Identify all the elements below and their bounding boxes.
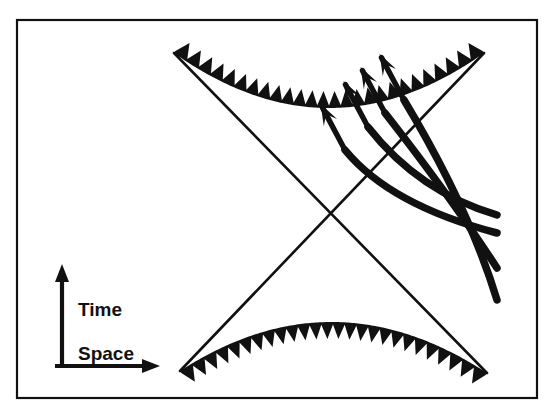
- diagram-canvas: Time Space: [0, 0, 555, 418]
- spacetime-diagram-figure: Time Space: [0, 0, 555, 418]
- time-axis-label: Time: [78, 299, 122, 320]
- space-axis-label: Space: [78, 343, 134, 364]
